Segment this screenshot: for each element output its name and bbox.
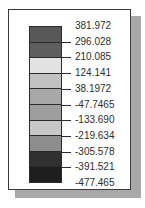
tick-mark [62, 105, 71, 106]
tick-label: 124.141 [75, 66, 111, 79]
colorbar-band [30, 27, 61, 43]
tick-label: -133.690 [75, 113, 114, 126]
tick-label: -47.7465 [75, 98, 114, 111]
tick-mark [62, 136, 71, 137]
tick-label: -305.578 [75, 145, 114, 158]
colorbar-tick-group: 381.972296.028210.085124.14138.1972-47.7… [62, 26, 132, 183]
colorbar-band [30, 152, 61, 168]
tick-mark [62, 73, 71, 74]
tick-label: 210.085 [75, 50, 111, 63]
colorbar [29, 26, 62, 183]
tick-mark [62, 120, 71, 121]
tick-label: 38.1972 [75, 82, 111, 95]
tick-label: -219.634 [75, 129, 114, 142]
tick-mark [62, 42, 71, 43]
colorbar-band [30, 43, 61, 59]
tick-mark [62, 152, 71, 153]
screenshot-root: 381.972296.028210.085124.14138.1972-47.7… [0, 0, 145, 208]
colorbar-band [30, 167, 61, 182]
tick-label: -477.465 [75, 176, 114, 189]
colorbar-band [30, 105, 61, 121]
tick-mark [62, 26, 71, 27]
tick-mark [62, 89, 71, 90]
tick-mark [62, 57, 71, 58]
tick-label: -391.521 [75, 160, 114, 173]
legend-panel: 381.972296.028210.085124.14138.1972-47.7… [8, 9, 131, 190]
tick-label: 296.028 [75, 35, 111, 48]
tick-mark [62, 167, 71, 168]
tick-mark [62, 183, 71, 184]
colorbar-band [30, 136, 61, 152]
tick-label: 381.972 [75, 19, 111, 32]
colorbar-band [30, 89, 61, 105]
colorbar-band [30, 121, 61, 137]
colorbar-band [30, 58, 61, 74]
colorbar-band [30, 74, 61, 90]
